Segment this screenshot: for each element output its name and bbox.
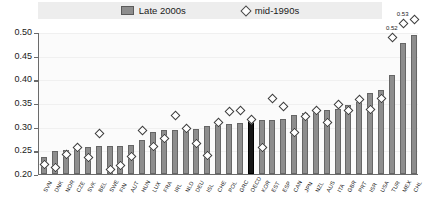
data-point-marker <box>279 102 289 112</box>
bar-slot <box>267 32 278 174</box>
bar <box>183 130 189 174</box>
data-point-marker <box>387 32 397 42</box>
bar-slot <box>224 32 235 174</box>
bar-slot <box>137 32 148 174</box>
x-axis-tick-label: KOR <box>260 179 271 193</box>
bar-slot <box>126 32 137 174</box>
y-axis-tick-label: 0.35 <box>14 98 32 108</box>
data-point-marker <box>333 99 343 109</box>
data-point-marker <box>94 128 104 138</box>
bar-slot <box>169 32 180 174</box>
legend-label-late-2000s: Late 2000s <box>139 6 186 16</box>
bar-slot <box>245 32 256 174</box>
bar <box>96 146 102 174</box>
data-point-label: 0.52 <box>386 25 398 31</box>
x-axis-tick-label: POL <box>227 180 238 193</box>
diamond-marker-icon <box>240 5 251 16</box>
y-axis-tick-label: 0.40 <box>14 74 32 84</box>
y-axis-tick-label: 0.20 <box>14 169 32 179</box>
bar-slot <box>321 32 332 174</box>
data-point-marker <box>268 93 278 103</box>
bar-slot: 0.52 <box>386 32 397 174</box>
bar-slot <box>82 32 93 174</box>
x-axis-tick-label: ESP <box>281 180 292 193</box>
bar <box>139 140 145 174</box>
bar-slot <box>376 32 387 174</box>
bar <box>400 43 406 174</box>
bar-slot <box>408 32 419 174</box>
x-axis-tick-label: GRC <box>238 179 249 193</box>
bar-slot <box>213 32 224 174</box>
bar-slot <box>234 32 245 174</box>
plot-area: 0.520.53 <box>38 33 418 175</box>
x-axis-tick-label: JPN <box>303 181 313 193</box>
bar <box>389 75 395 174</box>
bar-slot: 0.53 <box>397 32 408 174</box>
x-axis-tick-label: BEL <box>97 181 107 193</box>
x-axis-tick-label: SVN <box>43 180 54 193</box>
bar <box>215 125 221 174</box>
x-axis-tick-label: TUR <box>390 180 401 193</box>
bar <box>226 124 232 174</box>
bar-slot <box>202 32 213 174</box>
x-axis-tick-label: IRL <box>173 182 183 193</box>
x-axis-tick-label: FIN <box>119 182 129 193</box>
data-point-marker <box>170 111 180 121</box>
gini-bar-chart: Late 2000s mid-1990s 0.200.250.300.350.4… <box>0 0 424 208</box>
x-axis-tick-label: ISL <box>205 183 214 194</box>
x-axis-tick-label: ITA <box>336 183 345 193</box>
data-point-label: 0.53 <box>397 11 409 17</box>
data-point-marker <box>409 15 419 25</box>
bar <box>302 113 308 174</box>
bar <box>335 109 341 174</box>
chart-legend: Late 2000s mid-1990s <box>38 2 382 19</box>
bar <box>150 132 156 174</box>
bar-slot <box>115 32 126 174</box>
x-axis-tick-label: NZL <box>314 181 324 193</box>
bar-slot <box>343 32 354 174</box>
x-axis-tick-label: AUT <box>129 180 140 193</box>
y-axis-tick-label: 0.30 <box>14 122 32 132</box>
bar <box>345 105 351 174</box>
bar <box>356 102 362 174</box>
bar <box>269 120 275 174</box>
data-point-marker <box>398 19 408 29</box>
x-axis-tick-label: MEX <box>401 179 412 193</box>
x-axis-tick-label: HUN <box>140 179 151 193</box>
bar-slot <box>93 32 104 174</box>
x-axis-tick-label: CZE <box>75 180 86 193</box>
bar <box>193 129 199 174</box>
x-axis-tick-label: ISR <box>368 182 378 193</box>
x-axis-tick-label: LUX <box>151 180 162 193</box>
bar-swatch-icon <box>121 6 134 15</box>
bar-slot <box>50 32 61 174</box>
bar <box>237 123 243 174</box>
bar-slot <box>180 32 191 174</box>
bar-slot <box>148 32 159 174</box>
bar-series-group: 0.520.53 <box>39 33 418 174</box>
x-axis-tick-label: PRT <box>357 180 368 193</box>
bar-slot <box>289 32 300 174</box>
data-point-marker <box>225 107 235 117</box>
bar-slot <box>39 32 50 174</box>
y-axis-tick-label: 0.50 <box>14 27 32 37</box>
legend-item-late-2000s: Late 2000s <box>121 6 186 16</box>
legend-label-mid-1990s: mid-1990s <box>255 6 299 16</box>
x-axis-tick-label: NLD <box>184 180 195 193</box>
x-axis-tick-label: DEU <box>195 180 206 194</box>
bar-slot <box>191 32 202 174</box>
x-axis-labels: SVNDNKNORCZESVKBELSWEFINAUTHUNLUXFRAIRLN… <box>38 176 418 208</box>
x-axis-tick-label: USA <box>379 180 390 193</box>
y-axis-tick-label: 0.25 <box>14 145 32 155</box>
bar <box>411 35 417 174</box>
bar-slot <box>256 32 267 174</box>
bar-slot <box>354 32 365 174</box>
x-axis-tick-label: FRA <box>162 180 173 193</box>
x-axis-tick-label: EST <box>271 180 282 193</box>
bar-slot <box>332 32 343 174</box>
x-axis-tick-label: CHE <box>216 180 227 194</box>
bar-slot <box>278 32 289 174</box>
y-axis-tick-label: 0.45 <box>14 51 32 61</box>
data-point-marker <box>138 125 148 135</box>
x-axis-tick-label: DNK <box>53 180 64 194</box>
